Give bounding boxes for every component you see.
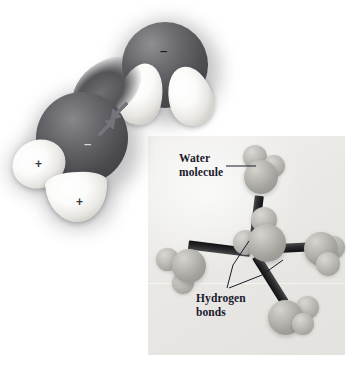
negative-charge-lower-oxygen: – — [84, 137, 91, 150]
negative-charge-upper-oxygen: – — [160, 44, 167, 57]
positive-charge-hydrogen-left: + — [35, 158, 42, 170]
main-space-filling-diagram: – – + + — [0, 0, 240, 240]
inset-right-hydrogen-b — [316, 252, 340, 276]
inset-left-oxygen — [172, 249, 206, 283]
hydrogen-bonding-figure: – – + + — [0, 0, 355, 366]
positive-charge-hydrogen-bottom: + — [76, 196, 83, 208]
label-water-molecule: Water molecule — [179, 152, 223, 179]
inset-central-oxygen — [248, 224, 286, 262]
label-hydrogen-bonds: Hydrogen bonds — [196, 292, 246, 319]
inset-top-oxygen — [244, 160, 278, 194]
inset-bottom-hydrogen-b — [292, 313, 314, 335]
hydrogen-bond-arrow-icon — [94, 100, 132, 138]
